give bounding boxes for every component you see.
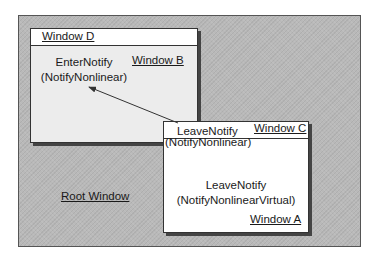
window-a-detail: (NotifyNonlinearVirtual): [163, 194, 309, 207]
window-d-label: Window D: [42, 30, 94, 43]
window-b-label: Window B: [132, 54, 184, 67]
window-a-event: LeaveNotify: [163, 179, 309, 192]
window-c-detail: (NotifyNonlinear): [165, 136, 251, 149]
window-b-event: EnterNotify: [39, 56, 129, 69]
root-window-label: Root Window: [61, 190, 129, 203]
window-a-label: Window A: [250, 213, 301, 226]
window-c-label: Window C: [254, 122, 306, 135]
window-b-detail: (NotifyNonlinear): [36, 71, 132, 84]
